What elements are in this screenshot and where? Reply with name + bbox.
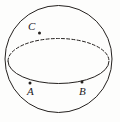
point-label-a: A xyxy=(27,86,34,97)
sphere-outline-circle xyxy=(5,6,112,113)
point-label-c: C xyxy=(28,21,35,32)
geometry-figure-canvas: C A B xyxy=(0,0,120,122)
sphere-diagram-svg xyxy=(0,0,120,122)
great-circle-back-arc-dashed xyxy=(8,39,109,62)
point-label-b: B xyxy=(79,86,86,97)
great-circle-front-arc-solid xyxy=(8,61,109,84)
point-c-dot xyxy=(38,32,41,35)
point-b-dot xyxy=(81,81,84,84)
